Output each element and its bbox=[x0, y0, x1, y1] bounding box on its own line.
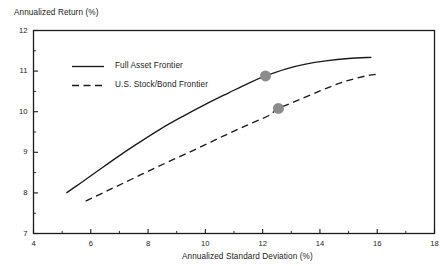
data-point-marker-1 bbox=[260, 70, 271, 81]
x-tick-label: 12 bbox=[252, 239, 274, 248]
data-point-markers bbox=[260, 70, 284, 113]
y-tick-label: 7 bbox=[6, 229, 28, 238]
legend-label-2: U.S. Stock/Bond Frontier bbox=[115, 80, 208, 89]
x-tick-label: 14 bbox=[309, 239, 331, 248]
x-tick-label: 18 bbox=[424, 239, 446, 248]
minor-tick-marks bbox=[34, 51, 406, 234]
series-line-2 bbox=[86, 74, 376, 201]
major-tick-marks bbox=[34, 31, 435, 234]
series-line-1 bbox=[66, 57, 371, 193]
y-tick-label: 9 bbox=[6, 147, 28, 156]
chart-figure: Annualized Return (%) Annualized Standar… bbox=[0, 0, 447, 266]
x-tick-label: 6 bbox=[80, 239, 102, 248]
y-tick-label: 12 bbox=[6, 26, 28, 35]
x-tick-label: 4 bbox=[23, 239, 45, 248]
y-tick-label: 11 bbox=[6, 66, 28, 75]
y-tick-label: 10 bbox=[6, 107, 28, 116]
x-tick-label: 16 bbox=[366, 239, 388, 248]
x-tick-label: 10 bbox=[194, 239, 216, 248]
data-point-marker-2 bbox=[273, 103, 284, 114]
legend-sample-lines bbox=[72, 67, 104, 86]
x-tick-label: 8 bbox=[137, 239, 159, 248]
legend-label-1: Full Asset Frontier bbox=[115, 61, 183, 70]
plot-frame bbox=[34, 31, 435, 234]
data-series-group bbox=[66, 57, 375, 201]
y-tick-label: 8 bbox=[6, 188, 28, 197]
plot-canvas bbox=[0, 0, 447, 266]
